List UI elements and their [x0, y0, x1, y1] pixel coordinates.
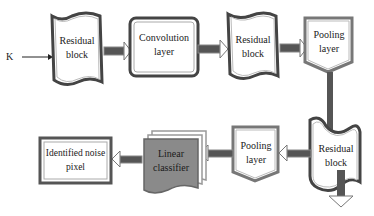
identified-noise-pixel-line2: pixel [42, 160, 109, 174]
pooling-layer-2: Pooling layer [234, 139, 278, 167]
residual-block-3-line1: Residual [312, 142, 360, 156]
identified-noise-pixel-line1: Identified noise [42, 146, 109, 160]
residual-block-1-line2: block [54, 48, 100, 62]
input-label: K [6, 50, 22, 64]
residual-block-2-line2: block [230, 47, 276, 61]
arrow-3-icon [280, 39, 307, 57]
pooling-layer-2-line1: Pooling [234, 139, 278, 153]
linear-classifier-line2: classifier [144, 161, 198, 175]
arrow-6-icon [112, 151, 142, 167]
pooling-layer-1-line1: Pooling [306, 28, 352, 42]
arrow-4-icon [279, 145, 311, 161]
linear-classifier: Linear classifier [144, 147, 198, 175]
identified-noise-pixel: Identified noise pixel [42, 146, 109, 174]
residual-block-3-line2: block [312, 156, 360, 170]
residual-block-3: Residual block [312, 142, 360, 170]
arrow-1-icon [104, 42, 131, 60]
residual-block-2: Residual block [230, 33, 276, 61]
pooling-layer-1-line2: layer [306, 42, 352, 56]
pooling-layer-1: Pooling layer [306, 28, 352, 56]
convolution-layer: Convolution layer [134, 31, 194, 59]
residual-block-1-line1: Residual [54, 34, 100, 48]
arrow-2-icon [198, 40, 228, 58]
linear-classifier-line1: Linear [144, 147, 198, 161]
pooling-layer-2-line2: layer [234, 153, 278, 167]
convolution-layer-line2: layer [134, 45, 194, 59]
residual-block-2-line1: Residual [230, 33, 276, 47]
convolution-layer-line1: Convolution [134, 31, 194, 45]
residual-block-1: Residual block [54, 34, 100, 62]
